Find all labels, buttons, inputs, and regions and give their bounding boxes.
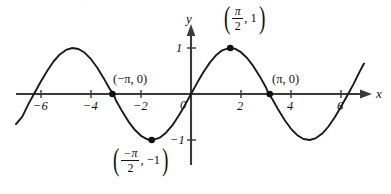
x-tick-label-4: 4 xyxy=(287,100,293,113)
close-paren: ) xyxy=(162,147,168,174)
point-neg-half-pi-min xyxy=(148,137,155,144)
point-label-neg-pi-zero: (−π, 0) xyxy=(113,73,147,86)
x-tick-label-6: 6 xyxy=(337,100,343,113)
point-label-pi-zero: (π, 0) xyxy=(272,73,299,86)
origin-label: 0 xyxy=(180,99,186,112)
open-paren: ( xyxy=(113,147,119,174)
fraction-denominator: 2 xyxy=(233,20,243,32)
label-suffix: , 1 xyxy=(243,11,257,26)
fraction-pi-over-2: π 2 xyxy=(232,5,243,32)
x-axis xyxy=(16,90,372,99)
sine-graph-figure: . . . . xyxy=(0,0,391,194)
point-pi-zero xyxy=(266,91,273,98)
y-tick-label-1: 1 xyxy=(176,42,182,55)
point-label-half-pi-max: ( π 2 , 1 ) xyxy=(222,5,267,32)
fraction-numerator: −π xyxy=(121,147,139,159)
point-label-neg-half-pi-min: ( −π 2 , −1 ) xyxy=(111,147,170,174)
fraction-denominator: 2 xyxy=(125,162,135,174)
fraction-neg-pi-over-2: −π 2 xyxy=(121,147,139,174)
x-tick-label--4: −4 xyxy=(83,100,98,113)
open-paren: ( xyxy=(224,5,230,32)
x-tick-label-2: 2 xyxy=(237,100,243,113)
x-tick-label--2: −2 xyxy=(133,100,148,113)
close-paren: ) xyxy=(259,5,265,32)
y-axis-label: y xyxy=(186,12,192,25)
point-half-pi-max xyxy=(227,45,234,52)
y-tick-label--1: −1 xyxy=(170,134,185,147)
x-tick-label--6: −6 xyxy=(33,100,48,113)
plot-canvas xyxy=(0,0,391,194)
label-suffix: , −1 xyxy=(139,153,160,168)
x-axis-label: x xyxy=(376,87,382,100)
fraction-numerator: π xyxy=(233,5,243,17)
point-neg-pi-zero xyxy=(109,91,116,98)
